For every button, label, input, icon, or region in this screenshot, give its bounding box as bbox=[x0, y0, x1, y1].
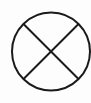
diagram-canvas bbox=[0, 0, 91, 103]
circle-x-icon bbox=[0, 0, 91, 103]
